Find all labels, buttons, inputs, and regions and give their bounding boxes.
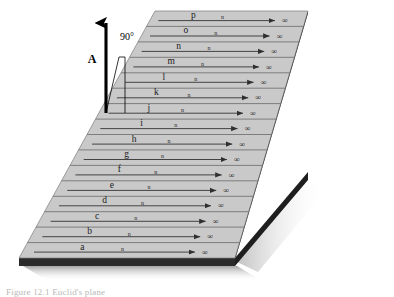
row-midpoint-n-label: n bbox=[221, 14, 224, 20]
figure-caption: Figure 12.1 Euclid's plane bbox=[6, 287, 105, 297]
row-letter-label: l bbox=[162, 72, 165, 82]
row-letter-label: h bbox=[132, 134, 137, 144]
row-infinity-label: ∞ bbox=[229, 171, 235, 180]
row-infinity-label: ∞ bbox=[234, 155, 240, 164]
row-infinity-label: ∞ bbox=[218, 201, 224, 210]
row-midpoint-n-label: n bbox=[148, 184, 151, 190]
row-infinity-label: ∞ bbox=[266, 63, 272, 72]
row-infinity-label: ∞ bbox=[261, 78, 267, 87]
row-letter-label: i bbox=[140, 118, 143, 128]
row-letter-label: p bbox=[191, 10, 196, 20]
row-midpoint-n-label: n bbox=[141, 200, 144, 206]
row-midpoint-n-label: n bbox=[168, 138, 171, 144]
row-letter-label: c bbox=[95, 211, 99, 221]
row-midpoint-n-label: n bbox=[161, 153, 164, 159]
row-midpoint-n-label: n bbox=[201, 61, 204, 67]
row-midpoint-n-label: n bbox=[208, 45, 211, 51]
row-midpoint-n-label: n bbox=[188, 92, 191, 98]
row-letter-label: k bbox=[154, 87, 159, 97]
row-midpoint-n-label: n bbox=[121, 246, 124, 252]
row-infinity-label: ∞ bbox=[223, 186, 229, 195]
row-letter-label: j bbox=[147, 103, 151, 113]
row-infinity-label: ∞ bbox=[245, 124, 251, 133]
row-letter-label: b bbox=[87, 226, 92, 236]
row-midpoint-n-label: n bbox=[194, 76, 197, 82]
row-midpoint-n-label: n bbox=[134, 215, 137, 221]
row-midpoint-n-label: n bbox=[181, 107, 184, 113]
row-midpoint-n-label: n bbox=[128, 231, 131, 237]
vector-a-label: A bbox=[88, 52, 97, 66]
row-midpoint-n-label: n bbox=[174, 122, 177, 128]
row-midpoint-n-label: n bbox=[154, 169, 157, 175]
row-letter-label: g bbox=[124, 149, 129, 159]
row-infinity-label: ∞ bbox=[207, 232, 213, 241]
row-infinity-label: ∞ bbox=[250, 109, 256, 118]
row-infinity-label: ∞ bbox=[282, 16, 288, 25]
row-letter-label: d bbox=[102, 195, 107, 205]
row-letter-label: e bbox=[110, 180, 114, 190]
row-infinity-label: ∞ bbox=[277, 32, 283, 41]
row-letter-label: m bbox=[167, 56, 175, 66]
row-infinity-label: ∞ bbox=[202, 248, 208, 257]
row-infinity-label: ∞ bbox=[271, 47, 277, 56]
row-infinity-label: ∞ bbox=[255, 93, 261, 102]
angle-90-label: 90° bbox=[120, 31, 134, 42]
row-infinity-label: ∞ bbox=[213, 217, 219, 226]
row-midpoint-n-label: n bbox=[214, 30, 217, 36]
row-letter-label: o bbox=[184, 25, 189, 35]
row-infinity-label: ∞ bbox=[239, 140, 245, 149]
row-letter-label: n bbox=[176, 41, 181, 51]
